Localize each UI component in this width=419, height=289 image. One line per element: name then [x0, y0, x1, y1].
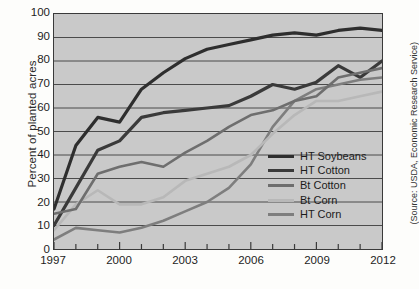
y-tick-label: 80	[18, 54, 50, 66]
legend-item[interactable]: Bt Cotton	[268, 178, 372, 193]
legend-color-swatch	[268, 199, 294, 202]
y-tick-label: 70	[18, 78, 50, 90]
x-tick-label: 2000	[97, 254, 141, 266]
y-tick-label: 10	[18, 220, 50, 232]
legend-color-swatch	[268, 155, 294, 158]
x-axis-tick-marks	[54, 242, 382, 249]
legend-color-swatch	[268, 213, 294, 216]
legend-item-label: HT Soybeans	[300, 151, 366, 162]
x-tick-label: 2009	[295, 254, 339, 266]
y-tick-label: 20	[18, 197, 50, 209]
y-axis-tick-labels: 0102030405060708090100	[12, 0, 50, 289]
legend-item[interactable]: HT Soybeans	[268, 149, 372, 164]
legend-item-label: Bt Cotton	[300, 180, 346, 191]
y-tick-label: 30	[18, 173, 50, 185]
source-note: (Source: USDA, Economic Research Service…	[409, 42, 419, 272]
legend-item-label: Bt Corn	[300, 195, 337, 206]
legend-item-label: HT Cotton	[300, 165, 350, 176]
y-tick-label: 50	[18, 126, 50, 138]
y-tick-label: 100	[18, 7, 50, 19]
y-tick-label: 90	[18, 31, 50, 43]
legend-color-swatch	[268, 169, 294, 172]
y-tick-label: 60	[18, 102, 50, 114]
x-tick-label: 2003	[163, 254, 207, 266]
y-tick-label: 40	[18, 149, 50, 161]
legend-color-swatch	[268, 184, 294, 187]
chart-figure: Percent of planted acres (Source: USDA, …	[0, 0, 419, 289]
legend-item-label: HT Corn	[300, 209, 341, 220]
legend-item[interactable]: Bt Corn	[268, 193, 372, 208]
x-tick-label: 1997	[31, 254, 75, 266]
chart-legend: HT SoybeansHT CottonBt CottonBt CornHT C…	[268, 149, 372, 222]
x-axis-tick-labels: 199720002003200620092012	[53, 254, 383, 274]
x-tick-label: 2006	[229, 254, 273, 266]
x-tick-label: 2012	[361, 254, 405, 266]
legend-item[interactable]: HT Corn	[268, 207, 372, 222]
legend-item[interactable]: HT Cotton	[268, 164, 372, 179]
